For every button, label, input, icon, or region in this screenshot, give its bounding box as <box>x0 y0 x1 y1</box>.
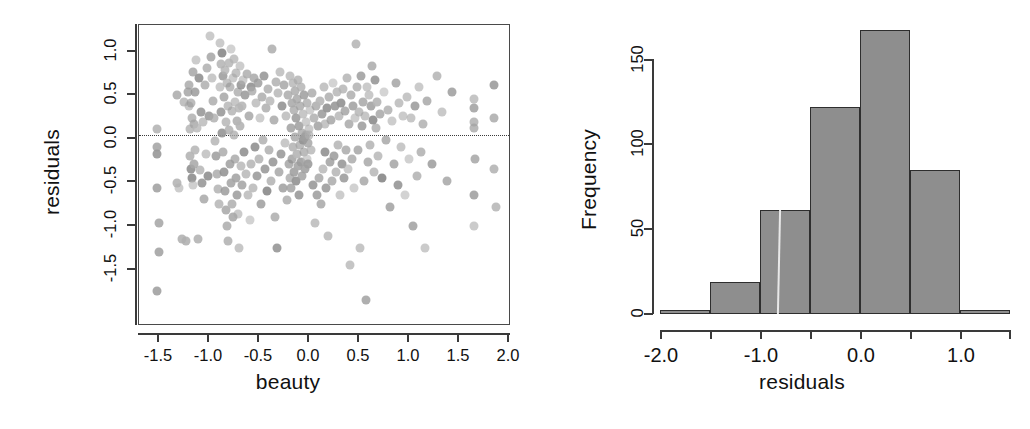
scatter-point <box>383 106 392 115</box>
scatter-plot-panel: residuals beauty 1.0 0.5 0.0 -0.5 -1.0 -… <box>0 0 515 429</box>
scatter-point <box>421 244 430 253</box>
scatter-point <box>202 150 211 159</box>
scatter-point <box>244 112 253 121</box>
scatter-point <box>328 177 337 186</box>
scatter-point <box>365 140 374 149</box>
scatter-plot-area <box>138 24 510 325</box>
scatter-point <box>280 81 289 90</box>
scatter-point <box>266 96 275 105</box>
scatter-point <box>233 209 242 218</box>
scatter-point <box>274 89 283 98</box>
histogram-x-axis-label: residuals <box>759 370 845 394</box>
histogram-xtick-mark-0.0 <box>860 330 862 339</box>
scatter-ytick--0.5: -0.5 <box>101 166 120 194</box>
scatter-point <box>282 112 291 121</box>
scatter-point <box>340 174 349 183</box>
scatter-point <box>261 164 270 173</box>
scatter-point <box>217 48 226 57</box>
histogram-ytick-mark-100 <box>644 143 653 145</box>
scatter-point <box>407 113 416 122</box>
scatter-point <box>377 174 386 183</box>
scatter-point <box>189 181 198 190</box>
scatter-point <box>350 183 359 192</box>
scatter-point <box>278 102 287 111</box>
scatter-point <box>245 215 254 224</box>
histogram-xtick-mark-0.5 <box>910 330 912 339</box>
histogram-xtick-mark-1.0 <box>960 330 962 339</box>
scatter-point <box>329 78 338 87</box>
scatter-point <box>490 164 499 173</box>
scatter-xtick-mark-7 <box>457 333 459 342</box>
scatter-point <box>226 44 235 53</box>
histogram-bar <box>760 210 810 314</box>
scatter-point <box>364 90 373 99</box>
histogram-bar <box>960 310 1010 314</box>
scatter-ytick-mark-4 <box>127 180 136 182</box>
scatter-point <box>307 89 316 98</box>
scatter-point <box>277 150 286 159</box>
scatter-xtick-mark-1 <box>157 333 159 342</box>
scatter-point <box>154 219 163 228</box>
scatter-point <box>209 96 218 105</box>
scatter-ytick-mark-5 <box>127 224 136 226</box>
scatter-ytick--1.5: -1.5 <box>101 254 120 282</box>
scatter-point <box>304 131 313 140</box>
scatter-point <box>432 71 441 80</box>
scatter-point <box>227 200 236 209</box>
scatter-point <box>343 73 352 82</box>
scatter-point <box>320 148 329 157</box>
scatter-point <box>206 31 215 40</box>
scatter-point <box>152 150 161 159</box>
scatter-point <box>369 167 378 176</box>
scatter-point <box>154 248 163 257</box>
scatter-point <box>361 296 370 305</box>
scatter-point <box>359 177 368 186</box>
scatter-xtick-mark-8 <box>507 333 509 342</box>
scatter-point <box>411 102 420 111</box>
scatter-point <box>353 83 362 92</box>
scatter-point <box>395 98 404 107</box>
scatter-point <box>401 190 410 199</box>
scatter-point <box>413 171 422 180</box>
scatter-point <box>490 81 499 90</box>
scatter-point <box>469 94 478 103</box>
scatter-point <box>269 158 278 167</box>
scatter-point <box>372 97 381 106</box>
scatter-y-axis-label: residuals <box>40 129 64 215</box>
scatter-point <box>316 200 325 209</box>
scatter-point <box>235 121 244 130</box>
scatter-point <box>201 81 210 90</box>
scatter-point <box>324 231 333 240</box>
scatter-point <box>403 92 412 101</box>
scatter-point <box>397 142 406 151</box>
scatter-point <box>152 183 161 192</box>
histogram-y-axis-label: Frequency <box>577 129 601 230</box>
scatter-ytick-1.0: 1.0 <box>101 39 120 62</box>
scatter-ytick-0.5: 0.5 <box>101 82 120 105</box>
scatter-point <box>381 136 390 145</box>
scatter-ytick-mark-1 <box>127 50 136 52</box>
scatter-point <box>260 71 269 80</box>
scatter-point <box>204 171 213 180</box>
histogram-xtick-mark-1.5 <box>1009 330 1011 339</box>
scatter-point <box>264 85 273 94</box>
scatter-point <box>387 116 396 125</box>
scatter-point <box>259 136 268 145</box>
scatter-point <box>367 62 376 71</box>
scatter-point <box>251 142 260 151</box>
scatter-point <box>332 167 341 176</box>
scatter-point <box>191 145 200 154</box>
scatter-point <box>373 152 382 161</box>
scatter-point <box>469 104 478 113</box>
histogram-ytick-mark-50 <box>644 228 653 230</box>
scatter-point <box>187 98 196 107</box>
scatter-point <box>371 123 380 132</box>
scatter-point <box>234 244 243 253</box>
histogram-bars-area <box>660 20 1010 314</box>
scatter-point <box>257 200 266 209</box>
scatter-point <box>342 145 351 154</box>
scatter-point <box>283 196 292 205</box>
scatter-point <box>219 92 228 101</box>
scatter-point <box>356 244 365 253</box>
histogram-bar <box>860 30 910 314</box>
